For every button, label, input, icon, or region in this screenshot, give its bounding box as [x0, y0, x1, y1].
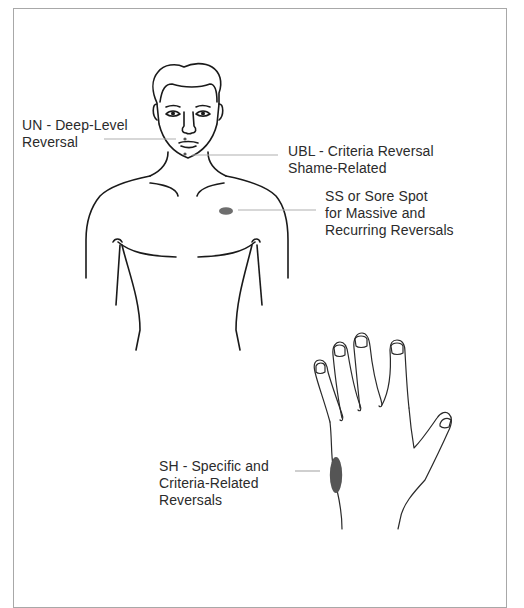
label-ss-line-3: Recurring Reversals: [325, 222, 454, 239]
label-sh-specific-criteria: SH - Specific and Criteria-Related Rever…: [159, 458, 269, 509]
label-sh-line-3: Reversals: [159, 492, 269, 509]
label-ubl-line-2: Shame-Related: [288, 160, 434, 177]
label-ubl-line-1: UBL - Criteria Reversal: [288, 143, 434, 160]
leader-lines: [104, 139, 320, 471]
label-ss-line-2: for Massive and: [325, 205, 454, 222]
un-point-marker: [183, 137, 186, 140]
hand-illustration: [314, 333, 451, 529]
label-sh-line-2: Criteria-Related: [159, 475, 269, 492]
label-sh-line-1: SH - Specific and: [159, 458, 269, 475]
ss-sore-spot-marker: [219, 207, 233, 215]
label-ubl-criteria-reversal: UBL - Criteria Reversal Shame-Related: [288, 143, 434, 177]
label-ss-sore-spot: SS or Sore Spot for Massive and Recurrin…: [325, 188, 454, 239]
ubl-point-marker: [183, 152, 186, 155]
sh-specific-marker: [330, 457, 342, 493]
label-ss-line-1: SS or Sore Spot: [325, 188, 454, 205]
label-un-line-1: UN - Deep-Level: [22, 117, 128, 134]
human-figure-illustration: [86, 64, 288, 350]
label-un-line-2: Reversal: [22, 134, 128, 151]
label-un-deep-level-reversal: UN - Deep-Level Reversal: [22, 117, 128, 151]
